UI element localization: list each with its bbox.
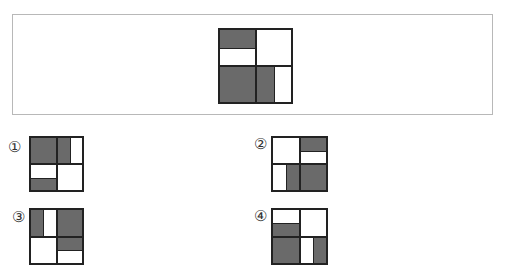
shaded-region bbox=[286, 165, 299, 190]
shaded-region bbox=[58, 138, 70, 163]
quadrant-bottom-right bbox=[57, 237, 84, 265]
quadrant-bottom-left bbox=[30, 164, 57, 191]
shaded-region bbox=[257, 67, 274, 102]
quadrant-top-left bbox=[219, 29, 256, 66]
divider-line bbox=[274, 67, 275, 102]
divider-line bbox=[273, 223, 299, 224]
main-figure bbox=[218, 28, 293, 104]
divider-line bbox=[301, 151, 327, 152]
divider-line bbox=[286, 165, 287, 190]
shaded-region bbox=[220, 67, 255, 102]
option-4-figure[interactable] bbox=[271, 208, 328, 265]
quadrant-bottom-right bbox=[57, 164, 84, 191]
quadrant-top-right bbox=[57, 137, 84, 164]
option-2-label[interactable]: ② bbox=[254, 137, 267, 152]
shaded-region bbox=[220, 30, 255, 48]
shaded-region bbox=[273, 223, 299, 236]
quadrant-bottom-left bbox=[272, 237, 300, 265]
quadrant-bottom-right bbox=[300, 164, 328, 191]
divider-line bbox=[70, 138, 71, 163]
divider-line bbox=[43, 210, 44, 236]
shaded-region bbox=[58, 210, 83, 236]
quadrant-top-left bbox=[272, 137, 300, 164]
option-1-figure[interactable] bbox=[29, 136, 84, 192]
quadrant-top-right bbox=[300, 209, 328, 237]
option-2-figure[interactable] bbox=[271, 136, 328, 192]
quadrant-top-left bbox=[272, 209, 300, 237]
shaded-region bbox=[31, 138, 56, 163]
quadrant-top-left bbox=[30, 137, 57, 164]
quadrant-top-left bbox=[30, 209, 57, 237]
quadrant-bottom-left bbox=[272, 164, 300, 191]
quadrant-bottom-left bbox=[30, 237, 57, 265]
quadrant-top-right bbox=[256, 29, 293, 66]
shaded-region bbox=[313, 238, 326, 264]
quadrant-bottom-left bbox=[219, 66, 256, 103]
quadrant-top-right bbox=[300, 137, 328, 164]
option-1-label[interactable]: ① bbox=[8, 140, 21, 155]
shaded-region bbox=[301, 138, 327, 151]
shaded-region bbox=[58, 238, 83, 251]
option-3-label[interactable]: ③ bbox=[12, 210, 25, 225]
option-4-label[interactable]: ④ bbox=[254, 209, 267, 224]
shaded-region bbox=[301, 165, 327, 190]
shaded-region bbox=[273, 238, 299, 264]
shaded-region bbox=[31, 178, 56, 191]
quadrant-bottom-right bbox=[256, 66, 293, 103]
divider-line bbox=[313, 238, 314, 264]
quadrant-top-right bbox=[57, 209, 84, 237]
divider-line bbox=[31, 178, 56, 179]
option-3-figure[interactable] bbox=[29, 208, 84, 265]
shaded-region bbox=[31, 210, 43, 236]
quadrant-bottom-right bbox=[300, 237, 328, 265]
divider-line bbox=[58, 250, 83, 251]
divider-line bbox=[220, 48, 255, 49]
